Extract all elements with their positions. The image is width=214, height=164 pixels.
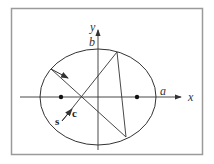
ray-line-1 (51, 69, 126, 137)
ellipse-reflection-diagram: y b a x s c (0, 0, 214, 164)
focus-right (135, 95, 139, 99)
x-axis-label: x (187, 90, 194, 104)
a-label: a (160, 84, 166, 98)
s-label: s (55, 115, 60, 127)
frame (12, 9, 203, 155)
y-axis-label: y (89, 20, 96, 34)
ray-line-3 (117, 52, 126, 137)
b-label: b (89, 35, 95, 49)
c-label: c (72, 107, 77, 119)
direction-arrow-c (62, 109, 72, 121)
focus-left (59, 95, 63, 99)
